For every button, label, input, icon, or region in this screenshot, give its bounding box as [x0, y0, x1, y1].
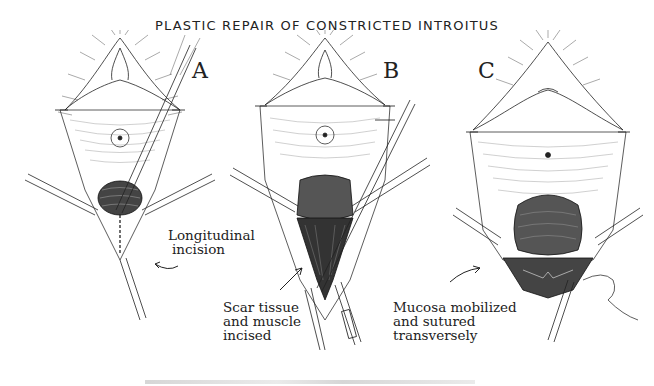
- annotation-longitudinal-incision: Longitudinal incision: [168, 228, 255, 256]
- annotation-mucosa-mobilized: Mucosa mobilized and sutured transversel…: [393, 300, 517, 342]
- surgical-drawing-a: [20, 30, 220, 330]
- arrow-icon-a: [150, 258, 180, 274]
- arrow-icon-b: [278, 262, 308, 292]
- panel-b-letter: B: [383, 58, 399, 83]
- annotation-scar-tissue: Scar tissue and muscle incised: [223, 300, 301, 342]
- panel-a-illustration: A: [20, 30, 220, 330]
- panel-c-letter: C: [478, 58, 495, 83]
- arrow-icon-c: [448, 264, 482, 284]
- panel-a-letter: A: [192, 58, 208, 83]
- truncated-caption: [145, 380, 475, 384]
